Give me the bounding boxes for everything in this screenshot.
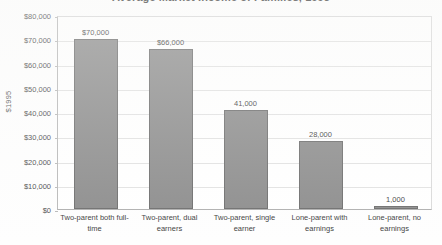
y-axis-tick-label: $30,000 (0, 133, 51, 142)
bar-value-label: 28,000 (309, 130, 332, 139)
chart-title: Average Market Income of Families, 1995 (0, 0, 442, 3)
y-axis-tick-label: $70,000 (0, 36, 51, 45)
y-axis-tick-label: $40,000 (0, 109, 51, 118)
bar-series: $70,000$66,00041,00028,0001,000 (58, 17, 431, 209)
x-axis-category-label: Lone-parent with earnings (282, 213, 357, 234)
x-axis-category-label: Lone-parent, no earnings (357, 213, 432, 234)
bar-value-label: $70,000 (82, 28, 109, 37)
bar[interactable] (374, 206, 418, 209)
x-axis-category-labels: Two-parent both full-timeTwo-parent, dua… (57, 213, 432, 245)
bar[interactable] (224, 110, 268, 209)
y-axis-tick-label: $60,000 (0, 60, 51, 69)
x-axis-category-label: Two-parent, dual earners (132, 213, 207, 234)
y-axis-tick-label: $80,000 (0, 12, 51, 21)
bar-slot: 41,000 (208, 17, 283, 209)
bar-slot: 28,000 (283, 17, 358, 209)
y-axis-tick-label: $20,000 (0, 157, 51, 166)
bar-slot: $66,000 (133, 17, 208, 209)
bar-value-label: $66,000 (157, 38, 184, 47)
plot-area: $70,000$66,00041,00028,0001,000 (57, 16, 432, 210)
bar-slot: 1,000 (358, 17, 433, 209)
bar-slot: $70,000 (58, 17, 133, 209)
bar[interactable] (149, 49, 193, 209)
y-axis-tick-mark (55, 211, 58, 212)
y-axis-tick-label: $10,000 (0, 181, 51, 190)
y-axis-tick-labels: $0$10,000$20,000$30,000$40,000$50,000$60… (0, 16, 51, 210)
y-axis-tick-label: $0 (0, 206, 51, 215)
bar[interactable] (299, 141, 343, 209)
x-axis-category-label: Two-parent both full-time (57, 213, 132, 234)
bar[interactable] (74, 39, 118, 209)
chart-screenshot: Average Market Income of Families, 1995 … (0, 0, 442, 245)
bar-value-label: 1,000 (386, 195, 405, 204)
x-axis-category-label: Two-parent, single earner (207, 213, 282, 234)
bar-value-label: 41,000 (234, 99, 257, 108)
y-axis-tick-label: $50,000 (0, 84, 51, 93)
